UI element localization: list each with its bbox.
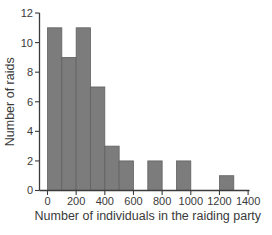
histogram-bar (219, 176, 233, 191)
x-axis-title: Number of individuals in the raiding par… (35, 209, 262, 223)
histogram-bar (119, 161, 133, 191)
x-tick-label: 800 (153, 195, 171, 207)
y-tick-label: 0 (27, 184, 33, 196)
histogram-bar (105, 146, 119, 190)
x-tick-label: 600 (124, 195, 142, 207)
x-tick-label: 400 (96, 195, 114, 207)
y-tick-label: 10 (21, 37, 33, 49)
histogram-bar (176, 161, 190, 191)
histogram-figure: 0246810120200400600800100012001400Number… (0, 0, 272, 235)
y-tick-label: 6 (27, 96, 33, 108)
y-tick-label: 4 (27, 125, 33, 137)
y-tick-label: 12 (21, 7, 33, 19)
histogram-bar (90, 87, 104, 191)
x-tick-label: 1200 (207, 195, 231, 207)
raids-histogram-chart: 0246810120200400600800100012001400Number… (0, 0, 272, 235)
x-tick-label: 1400 (236, 195, 260, 207)
histogram-bar (48, 28, 62, 191)
y-tick-label: 2 (27, 155, 33, 167)
x-tick-label: 0 (44, 195, 50, 207)
x-tick-label: 1000 (179, 195, 203, 207)
y-axis-title: Number of raids (3, 57, 17, 146)
histogram-bar (76, 28, 90, 191)
histogram-bar (148, 161, 162, 191)
histogram-bar (62, 57, 76, 190)
x-tick-label: 200 (67, 195, 85, 207)
y-tick-label: 8 (27, 66, 33, 78)
